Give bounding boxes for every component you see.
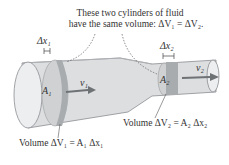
caption-line-2: have the same volume: ΔV₁ = ΔV₂. bbox=[46, 19, 226, 30]
velocity-v1-label: v₁ bbox=[80, 77, 88, 88]
caption-line-1: These two cylinders of fluid bbox=[40, 8, 220, 19]
area-a1-label: A₁ bbox=[42, 85, 52, 96]
velocity-v2-label: v₂ bbox=[196, 62, 204, 73]
volume-1-label: Volume ΔV₁ = A₁ Δx₁ bbox=[19, 138, 103, 148]
delta-x2-label: Δx₂ bbox=[160, 40, 174, 51]
pipe-left-opening bbox=[14, 62, 42, 128]
area-a2-label: A₂ bbox=[160, 74, 170, 85]
delta-x1-label: Δx₁ bbox=[37, 35, 51, 46]
volume-2-label: Volume ΔV₂ = A₂ Δx₂ bbox=[123, 118, 207, 128]
